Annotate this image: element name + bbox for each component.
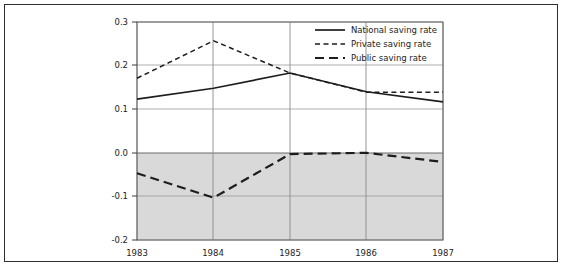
legend-label-private-saving-rate: Private saving rate bbox=[351, 39, 431, 49]
y-tick-label-1: 0.2 bbox=[114, 60, 128, 70]
legend-label-national-saving-rate: National saving rate bbox=[351, 25, 437, 35]
chart-legend: National saving rate Private saving rate… bbox=[315, 25, 437, 63]
saving-rate-line-chart: 0.3 0.2 0.1 0.0 -0.1 -0.2 1983 1984 1985… bbox=[0, 0, 566, 269]
figure-container: 0.3 0.2 0.1 0.0 -0.1 -0.2 1983 1984 1985… bbox=[0, 0, 566, 269]
legend-label-public-saving-rate: Public saving rate bbox=[351, 53, 427, 63]
x-tick-label-1985: 1985 bbox=[279, 248, 301, 258]
y-tick-label-3: 0.0 bbox=[114, 148, 128, 158]
x-tick-label-1984: 1984 bbox=[202, 248, 224, 258]
y-tick-label-5: -0.2 bbox=[111, 235, 128, 245]
y-tick-label-0: 0.3 bbox=[114, 17, 128, 27]
x-tick-label-1983: 1983 bbox=[126, 248, 148, 258]
y-tick-label-2: 0.1 bbox=[114, 104, 128, 114]
y-axis-ticks bbox=[132, 22, 137, 240]
y-tick-label-4: -0.1 bbox=[111, 191, 128, 201]
x-tick-label-1987: 1987 bbox=[432, 248, 454, 258]
x-tick-label-1986: 1986 bbox=[355, 248, 377, 258]
